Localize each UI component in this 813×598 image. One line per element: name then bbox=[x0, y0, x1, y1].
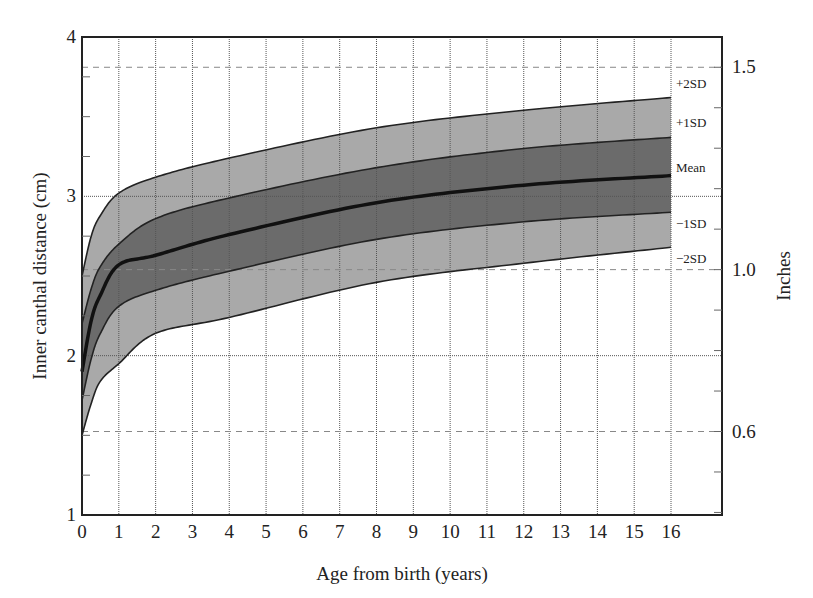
y-tick-label: 3 bbox=[67, 185, 77, 206]
x-tick-label: 9 bbox=[409, 521, 419, 542]
x-tick-label: 3 bbox=[188, 521, 198, 542]
y2-tick-label: 1.0 bbox=[732, 259, 756, 280]
x-tick-label: 11 bbox=[478, 521, 496, 542]
sd-bands bbox=[82, 98, 671, 436]
sd-label: +2SD bbox=[676, 76, 706, 91]
sd-label: −2SD bbox=[676, 251, 706, 266]
x-tick-label: 0 bbox=[77, 521, 87, 542]
y2-tick-label: 0.6 bbox=[732, 421, 756, 442]
sd-label: +1SD bbox=[676, 115, 706, 130]
x-axis-ticks: 012345678910111213141516 bbox=[77, 521, 680, 542]
sd-label: −1SD bbox=[676, 216, 706, 231]
x-tick-label: 15 bbox=[625, 521, 644, 542]
y-axis-ticks: 1234 bbox=[67, 26, 91, 525]
x-tick-label: 5 bbox=[261, 521, 271, 542]
x-tick-label: 13 bbox=[551, 521, 570, 542]
y-tick-label: 2 bbox=[67, 345, 77, 366]
y-tick-label: 1 bbox=[67, 504, 77, 525]
y2-tick-label: 1.5 bbox=[732, 56, 756, 77]
x-tick-label: 1 bbox=[114, 521, 124, 542]
sd-legend-labels: +2SD+1SDMean−1SD−2SD bbox=[676, 76, 706, 267]
x-tick-label: 12 bbox=[514, 521, 533, 542]
y-tick-label: 4 bbox=[67, 26, 77, 47]
growth-chart: 012345678910111213141516 1234 0.61.01.5 … bbox=[0, 0, 813, 598]
x-tick-label: 2 bbox=[151, 521, 161, 542]
y-axis-label: Inner canthal distance (cm) bbox=[29, 172, 51, 379]
x-tick-label: 7 bbox=[335, 521, 345, 542]
x-axis-label: Age from birth (years) bbox=[316, 563, 487, 585]
sd-label: Mean bbox=[676, 160, 706, 175]
y2-axis-label: Inches bbox=[773, 251, 794, 301]
x-tick-label: 6 bbox=[298, 521, 308, 542]
x-tick-label: 14 bbox=[588, 521, 608, 542]
x-tick-label: 8 bbox=[372, 521, 382, 542]
x-tick-label: 10 bbox=[441, 521, 460, 542]
x-tick-label: 4 bbox=[225, 521, 235, 542]
y2-axis-ticks: 0.61.01.5 bbox=[714, 56, 756, 512]
x-tick-label: 16 bbox=[662, 521, 681, 542]
